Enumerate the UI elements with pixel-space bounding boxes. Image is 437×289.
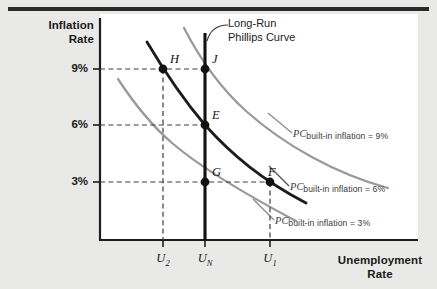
point-label-j: J xyxy=(212,52,218,67)
data-point-j xyxy=(201,65,210,74)
curve-pc-3-percent xyxy=(118,79,296,221)
curve-label-pc-6-subscript: built-in inflation = 6% xyxy=(303,184,385,194)
data-point-g xyxy=(201,178,210,187)
y-axis-title-line2: Rate xyxy=(18,32,94,46)
curve-label-pc-6-prefix: PC xyxy=(290,181,303,192)
x-axis-title-line2: Rate xyxy=(330,267,430,281)
curve-label-pc-6-percent: PCbuilt-in inflation = 6% xyxy=(290,181,385,194)
y-tick-label-6: 6% xyxy=(48,118,88,130)
x-tick-label-un-sub: N xyxy=(207,258,213,268)
x-axis-title-line1: Unemployment xyxy=(330,253,430,267)
data-point-h xyxy=(159,65,168,74)
point-label-h: H xyxy=(170,52,179,67)
y-axis-title: Inflation Rate xyxy=(18,18,94,46)
x-tick-label-u2-sub: 2 xyxy=(165,258,169,268)
curve-label-pc-3-percent: PCbuilt-in inflation = 3% xyxy=(275,215,370,228)
leader-line-pc-9 xyxy=(268,113,292,133)
long-run-phillips-curve-label: Long-Run Phillips Curve xyxy=(228,17,295,45)
curve-label-pc-9-prefix: PC xyxy=(293,128,306,139)
lrpc-label-line2: Phillips Curve xyxy=(228,31,295,45)
lrpc-label-line1: Long-Run xyxy=(228,17,295,31)
point-label-g: G xyxy=(212,165,221,180)
curve-label-pc-9-subscript: built-in inflation = 9% xyxy=(306,131,388,141)
phillips-curve-figure: Inflation Rate Unemployment Rate 9% 6% 3… xyxy=(0,0,437,289)
x-axis-title: Unemployment Rate xyxy=(330,253,430,281)
lrpc-leader-line xyxy=(207,25,228,41)
point-label-e: E xyxy=(212,108,220,123)
curve-label-pc-3-prefix: PC xyxy=(275,215,288,226)
data-point-e xyxy=(201,121,210,130)
x-tick-label-u1-sub: 1 xyxy=(272,258,276,268)
x-tick-label-u2: U2 xyxy=(143,251,183,268)
y-tick-label-9: 9% xyxy=(48,62,88,74)
y-axis-title-line1: Inflation xyxy=(18,18,94,32)
x-tick-label-u1: U1 xyxy=(250,251,290,268)
curve-label-pc-9-percent: PCbuilt-in inflation = 9% xyxy=(293,128,388,141)
x-tick-label-un-base: U xyxy=(198,251,207,265)
y-tick-label-3: 3% xyxy=(48,175,88,187)
x-tick-label-un: UN xyxy=(185,251,225,268)
curve-label-pc-3-subscript: built-in inflation = 3% xyxy=(288,218,370,228)
point-label-f: F xyxy=(268,165,276,180)
